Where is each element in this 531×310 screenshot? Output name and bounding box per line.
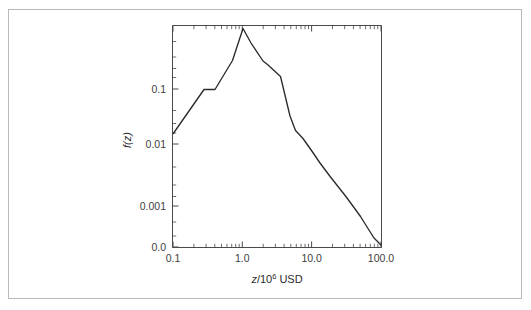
y-axis-label-text: f(z) <box>121 132 133 148</box>
x-axis-major-ticks <box>173 26 381 248</box>
x-tick-label-1: 1.0 <box>235 252 250 264</box>
chart-area: 0.1 1.0 10.0 100.0 0.1 0.01 0.001 0.0 f(… <box>0 0 531 310</box>
y-axis-minor-ticks <box>173 42 177 237</box>
y-tick-label-1: 0.01 <box>146 138 167 150</box>
x-tick-label-2: 10.0 <box>301 252 322 264</box>
y-tick-label-3: 0.0 <box>151 241 166 253</box>
x-axis-minor-ticks <box>194 26 378 248</box>
data-series-fz <box>173 29 381 246</box>
y-tick-labels: 0.1 0.01 0.001 0.0 <box>140 83 166 253</box>
x-tick-label-3: 100.0 <box>368 252 394 264</box>
x-tick-labels: 0.1 1.0 10.0 100.0 <box>166 252 395 264</box>
y-axis-label: f(z) <box>121 132 133 148</box>
y-tick-label-0: 0.1 <box>151 83 166 95</box>
y-tick-label-2: 0.001 <box>140 200 166 212</box>
line-chart-svg: 0.1 1.0 10.0 100.0 0.1 0.01 0.001 0.0 f(… <box>0 0 531 310</box>
x-axis-label: z/106 USD <box>250 272 302 285</box>
x-tick-label-0: 0.1 <box>166 252 181 264</box>
y-axis-major-ticks <box>173 89 179 247</box>
x-axis-label-text: z/106 USD <box>250 272 302 285</box>
plot-frame <box>173 26 382 248</box>
x-axis-label-divider: /10 <box>257 273 272 285</box>
x-axis-label-unit: USD <box>276 273 302 285</box>
curve-line <box>173 29 381 246</box>
